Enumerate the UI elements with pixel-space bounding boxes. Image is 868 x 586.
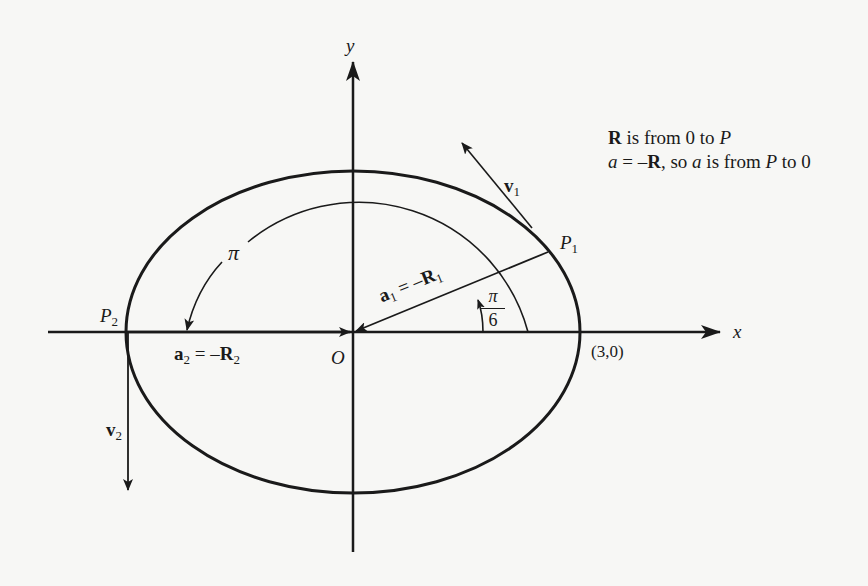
p1-name: P (560, 232, 572, 253)
note-eq: = – (618, 151, 648, 172)
note-rest: is from (702, 151, 766, 172)
v2-name: v (106, 419, 116, 440)
angle-pi-label: π (228, 242, 239, 264)
note-P2: P (765, 151, 777, 172)
p2-sub: 2 (112, 314, 119, 329)
note-end: to 0 (777, 151, 811, 172)
p1-sub: 1 (572, 241, 579, 256)
v1-label: v1 (504, 176, 520, 198)
p2-name: P (100, 305, 112, 326)
v2-label: v2 (106, 420, 122, 442)
a2-lhs: a (174, 343, 184, 364)
a2-equation-label: a2 = –R2 (174, 344, 240, 366)
point-p2-label: P2 (100, 306, 118, 328)
origin-label: O (331, 348, 345, 367)
note-line-1: R is from 0 to P (608, 126, 811, 150)
fraction-numerator: π (481, 286, 505, 309)
note-line-2: a = –R, so a is from P to 0 (608, 150, 811, 174)
fraction-denominator: 6 (481, 309, 505, 331)
v1-name: v (504, 175, 514, 196)
note-R2: R (647, 151, 661, 172)
explanation-note: R is from 0 to P a = –R, so a is from P … (608, 126, 811, 174)
vector-v1 (462, 143, 532, 228)
diagram-canvas (0, 0, 868, 586)
note-a2: a (692, 151, 702, 172)
v2-sub: 2 (116, 428, 123, 443)
angle-pi-6-label: π 6 (481, 286, 505, 331)
point-p1-label: P1 (560, 233, 578, 255)
v1-sub: 1 (514, 184, 521, 199)
note-R: R (608, 127, 622, 148)
a2-rhs: R (220, 343, 234, 364)
x-intercept-label: (3,0) (591, 343, 624, 360)
y-axis-label: y (346, 36, 354, 55)
angle-arc-pi-arrow (187, 262, 222, 330)
a2-rhs-sub: 2 (233, 352, 240, 367)
note-mid: , so (661, 151, 692, 172)
note-a: a (608, 151, 618, 172)
x-axis-label: x (733, 322, 741, 341)
a2-eq: = – (190, 343, 220, 364)
note-text: is from 0 to (622, 127, 720, 148)
note-P: P (719, 127, 731, 148)
